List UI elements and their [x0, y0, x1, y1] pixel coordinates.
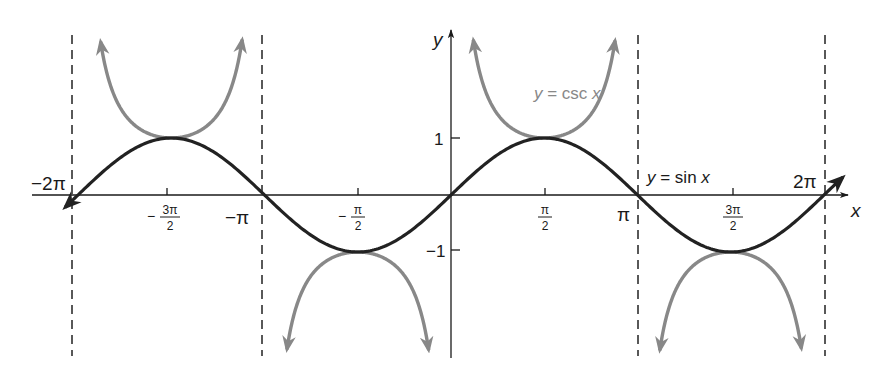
tick-label-yneg1: −1: [426, 242, 445, 261]
y-axis-label: y: [431, 29, 444, 50]
tick-label-negpi2: − π 2: [338, 203, 365, 233]
tick-label-2pi: 2π: [793, 171, 817, 192]
svg-text:3π: 3π: [726, 203, 741, 217]
x-axis-label: x: [850, 200, 862, 221]
tick-label-negpi: −π: [225, 207, 249, 228]
svg-text:3π: 3π: [163, 203, 178, 217]
svg-text:π: π: [541, 203, 549, 217]
sin-label: y = sin x: [646, 168, 710, 187]
svg-text:2: 2: [355, 219, 362, 233]
svg-text:2: 2: [167, 219, 174, 233]
csc-branch: [101, 40, 243, 138]
tick-label-pi2: π 2: [538, 203, 552, 233]
svg-text:2: 2: [542, 219, 549, 233]
csc-branch: [287, 252, 429, 350]
tick-label-pi: π: [617, 204, 630, 225]
tick-label-neg2pi: −2π: [31, 173, 66, 194]
tick-label-neg3pi2: − 3π 2: [147, 203, 180, 233]
sin-csc-graph: −2π −π π 2π − 3π 2 − π 2 π 2 3π 2: [0, 0, 882, 371]
svg-text:−: −: [338, 208, 346, 224]
svg-text:π: π: [354, 203, 362, 217]
svg-text:2: 2: [730, 219, 737, 233]
tick-label-3pi2: 3π 2: [723, 203, 743, 233]
svg-text:−: −: [147, 208, 155, 224]
csc-label: y = csc x: [533, 84, 601, 103]
csc-branch: [660, 252, 802, 350]
tick-label-y1: 1: [434, 130, 443, 149]
